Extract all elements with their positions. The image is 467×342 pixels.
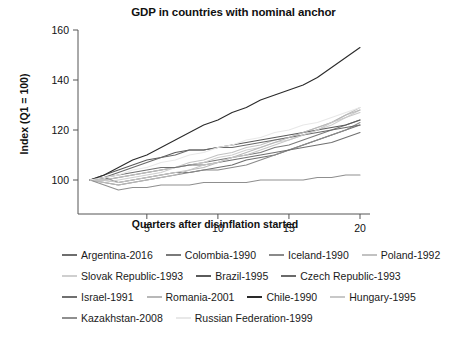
legend-line-swatch	[62, 254, 77, 256]
legend-line-swatch	[62, 296, 77, 298]
legend-line-swatch	[62, 317, 77, 319]
chart-figure: GDP in countries with nominal anchor 100…	[0, 0, 467, 342]
legend-label: Israel-1991	[81, 291, 134, 303]
legend-item[interactable]: Argentina-2016	[62, 249, 153, 261]
legend-label: Hungary-1995	[349, 291, 416, 303]
legend-item[interactable]: Czech Republic-1993	[281, 270, 400, 282]
legend-line-swatch	[176, 317, 191, 319]
legend-label: Poland-1992	[381, 249, 441, 261]
legend-label: Romania-2001	[166, 291, 235, 303]
legend-label: Russian Federation-1999	[195, 312, 313, 324]
legend-item[interactable]: Russian Federation-1999	[176, 312, 313, 324]
series-line	[90, 125, 360, 180]
legend-line-swatch	[196, 275, 211, 277]
legend-label: Colombia-1990	[185, 249, 256, 261]
legend-line-swatch	[247, 296, 262, 298]
legend-item[interactable]: Slovak Republic-1993	[62, 270, 183, 282]
legend-item[interactable]: Israel-1991	[62, 291, 134, 303]
legend-item[interactable]: Hungary-1995	[330, 291, 416, 303]
legend-label: Czech Republic-1993	[300, 270, 400, 282]
series-lines	[90, 48, 360, 191]
y-tick-label: 120	[51, 124, 69, 136]
legend-row: Kazakhstan-2008Russian Federation-1999	[0, 307, 467, 328]
legend-line-swatch	[330, 296, 345, 298]
legend-line-swatch	[362, 254, 377, 256]
legend-line-swatch	[166, 254, 181, 256]
legend-item[interactable]: Colombia-1990	[166, 249, 256, 261]
y-tick-label: 100	[51, 174, 69, 186]
y-axis-label: Index (Q1 = 100)	[18, 44, 30, 184]
legend-label: Chile-1990	[266, 291, 317, 303]
y-tick-label: 160	[51, 24, 69, 36]
chart-legend: Argentina-2016Colombia-1990Iceland-1990P…	[0, 244, 467, 328]
legend-line-swatch	[281, 275, 296, 277]
legend-row: Israel-1991Romania-2001Chile-1990Hungary…	[0, 286, 467, 307]
legend-line-swatch	[62, 275, 77, 277]
legend-item[interactable]: Iceland-1990	[269, 249, 349, 261]
legend-row: Slovak Republic-1993Brazil-1995Czech Rep…	[0, 265, 467, 286]
legend-item[interactable]: Romania-2001	[147, 291, 235, 303]
legend-line-swatch	[269, 254, 284, 256]
legend-label: Slovak Republic-1993	[81, 270, 183, 282]
y-tick-label: 140	[51, 74, 69, 86]
legend-item[interactable]: Kazakhstan-2008	[62, 312, 163, 324]
legend-label: Brazil-1995	[215, 270, 268, 282]
legend-line-swatch	[147, 296, 162, 298]
legend-label: Argentina-2016	[81, 249, 153, 261]
legend-item[interactable]: Poland-1992	[362, 249, 441, 261]
legend-label: Iceland-1990	[288, 249, 349, 261]
legend-label: Kazakhstan-2008	[81, 312, 163, 324]
legend-item[interactable]: Chile-1990	[247, 291, 317, 303]
legend-row: Argentina-2016Colombia-1990Iceland-1990P…	[0, 244, 467, 265]
x-axis-label: Quarters after disinflation started	[60, 218, 370, 230]
legend-item[interactable]: Brazil-1995	[196, 270, 268, 282]
